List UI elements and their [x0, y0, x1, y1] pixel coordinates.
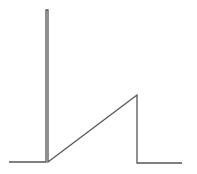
waveform-diagram: [0, 0, 197, 174]
waveform-line: [9, 10, 182, 163]
